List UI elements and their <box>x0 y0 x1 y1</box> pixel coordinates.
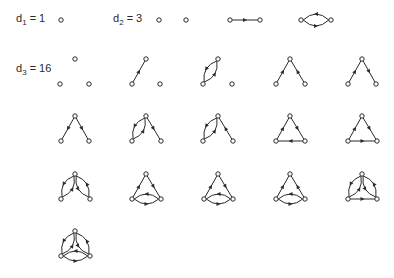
vertex-node <box>216 114 220 118</box>
digraph-d3 <box>274 57 307 86</box>
digraph-diagram <box>0 0 394 278</box>
vertex-node <box>346 82 350 86</box>
vertex-node <box>144 114 148 118</box>
vertex-node <box>87 82 91 86</box>
vertex-node <box>201 139 205 143</box>
vertex-node <box>346 197 350 201</box>
digraph-d3 <box>346 57 378 86</box>
arrowhead-icon <box>289 202 293 206</box>
vertex-node <box>59 18 63 22</box>
vertex-node <box>360 57 364 61</box>
vertex-node <box>144 57 148 61</box>
vertex-node <box>374 82 378 86</box>
vertex-node <box>231 139 235 143</box>
arrowhead-icon <box>361 139 365 143</box>
vertex-node <box>303 197 307 201</box>
vertex-node <box>144 172 148 176</box>
vertex-node <box>299 18 303 22</box>
vertex-node <box>375 139 379 143</box>
vertex-node <box>73 172 77 176</box>
digraph-d3 <box>59 229 92 263</box>
vertex-node <box>360 114 364 118</box>
arrowhead-icon <box>289 192 293 196</box>
vertex-node <box>184 18 188 22</box>
vertex-node <box>130 82 134 86</box>
vertex-node <box>231 197 235 201</box>
vertex-node <box>303 139 307 143</box>
vertex-node <box>202 197 206 201</box>
vertex-node <box>159 139 163 143</box>
vertex-node <box>288 172 292 176</box>
vertex-node <box>73 114 77 118</box>
vertex-node <box>87 139 91 143</box>
vertex-node <box>73 57 77 61</box>
arrowhead-icon <box>74 249 78 253</box>
digraph-d2 <box>299 12 333 28</box>
digraph-d3 <box>59 172 92 201</box>
digraph-d3 <box>201 57 234 86</box>
digraph-d3 <box>58 57 91 86</box>
digraph-d3 <box>202 172 235 206</box>
digraph-d3 <box>130 172 163 206</box>
arrowhead-icon <box>145 192 149 196</box>
digraph-d2 <box>157 18 188 22</box>
digraph-d3 <box>274 172 307 206</box>
digraph-d3 <box>346 114 379 143</box>
vertex-node <box>159 197 163 201</box>
arrowhead-icon <box>289 139 293 143</box>
vertex-node <box>130 197 134 201</box>
vertex-node <box>158 82 162 86</box>
digraph-d3 <box>130 57 162 86</box>
vertex-node <box>375 197 379 201</box>
vertex-node <box>228 18 232 22</box>
digraph-d3 <box>346 172 379 201</box>
vertex-node <box>201 82 205 86</box>
vertex-node <box>258 18 262 22</box>
vertex-node <box>274 139 278 143</box>
arrowhead-icon <box>145 202 149 206</box>
arrowhead-icon <box>314 24 318 28</box>
vertex-node <box>274 82 278 86</box>
vertex-node <box>360 172 364 176</box>
digraph-d3 <box>274 114 307 143</box>
arrowhead-icon <box>361 197 365 201</box>
vertex-node <box>346 139 350 143</box>
vertex-node <box>88 197 92 201</box>
vertex-node <box>59 197 63 201</box>
vertex-node <box>216 57 220 61</box>
vertex-node <box>157 18 161 22</box>
digraph-d2 <box>228 18 262 22</box>
vertex-node <box>130 139 134 143</box>
arrowhead-icon <box>74 259 78 263</box>
vertex-node <box>59 254 63 258</box>
arrowhead-icon <box>243 18 247 22</box>
vertex-node <box>274 197 278 201</box>
arrowhead-icon <box>217 192 221 196</box>
vertex-node <box>230 82 234 86</box>
digraph-d3 <box>130 114 163 143</box>
vertex-node <box>303 82 307 86</box>
vertex-node <box>58 82 62 86</box>
vertex-node <box>288 114 292 118</box>
digraph-d3 <box>59 114 91 143</box>
vertex-node <box>88 254 92 258</box>
vertex-node <box>73 229 77 233</box>
arrowhead-icon <box>217 202 221 206</box>
vertex-node <box>216 172 220 176</box>
vertex-node <box>59 139 63 143</box>
arrowhead-icon <box>314 12 318 16</box>
vertex-node <box>288 57 292 61</box>
vertex-node <box>329 18 333 22</box>
digraph-d3 <box>201 114 235 143</box>
digraph-d1 <box>59 18 63 22</box>
